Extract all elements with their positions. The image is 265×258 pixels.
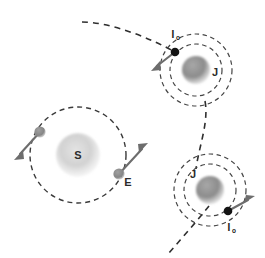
io-marker-top [151, 48, 179, 71]
jupiter-body-bottom [196, 176, 224, 204]
io-velocity-arrowhead-top [151, 61, 161, 71]
earth-velocity-arrowhead-upper-left [14, 150, 24, 160]
jupiter-body-top [182, 56, 210, 84]
io-label-bottom: I [228, 222, 231, 233]
physics-diagram-figure: S E J [0, 0, 265, 258]
trajectory-segment-middle [196, 101, 206, 169]
earth-marker-upper-left [14, 126, 46, 160]
earth-body-upper-left [34, 126, 45, 137]
earth-label: E [124, 176, 131, 188]
io-body-bottom [224, 207, 233, 216]
trajectory-segment-inbound [82, 22, 175, 52]
earth-body-lower-right [113, 168, 124, 179]
jupiter-label-bottom: J [190, 168, 196, 180]
io-label-top-subscript: o [176, 34, 180, 41]
earth-velocity-arrowhead-lower-right [138, 143, 148, 153]
trajectory-segment-outbound [168, 206, 209, 254]
jupiter-label-top: J [212, 66, 218, 78]
jupiter-io-system-top: J I o [151, 29, 232, 106]
diagram-canvas: S E J [0, 0, 265, 258]
io-label-top: I [172, 29, 175, 40]
io-velocity-arrowhead-bottom [244, 195, 255, 203]
spacecraft-trajectory [82, 22, 209, 254]
jupiter-io-system-bottom: J I o [174, 154, 255, 234]
io-body-top [171, 48, 180, 57]
sun-label: S [74, 149, 81, 161]
io-label-bottom-subscript: o [232, 227, 236, 234]
io-marker-bottom [224, 195, 255, 215]
earth-marker-lower-right [113, 143, 148, 180]
sun-earth-system: S E [14, 107, 148, 203]
